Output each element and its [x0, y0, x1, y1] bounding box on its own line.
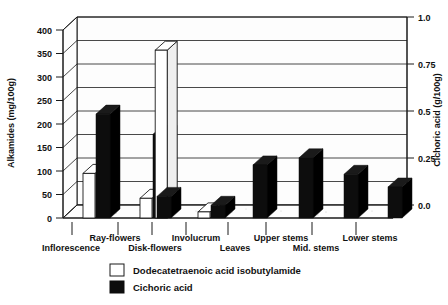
left-tick-400: 400 [37, 26, 52, 36]
category-label-involucrum: Involucrum [172, 233, 221, 243]
left-tick-200: 200 [37, 120, 52, 130]
right-tick-0_75: 0.75 [418, 60, 436, 70]
bar-chart-svg: 400 350 300 250 200 150 100 50 0 Alkamid… [0, 0, 448, 305]
bar-group-disk-flowers [155, 41, 181, 218]
bar-group-leaves [253, 156, 277, 218]
left-tick-150: 150 [37, 143, 52, 153]
category-label-leaves: Leaves [220, 243, 251, 253]
bar-group-upper-stems [299, 149, 323, 218]
category-label-disk-flowers: Disk-flowers [128, 243, 182, 253]
category-label-lower-stems: Lower stems [342, 233, 397, 243]
bar-lower-stems-cichoric [388, 178, 412, 218]
legend-label-alkamides: Dodecatetraenoic acid isobutylamide [133, 265, 301, 276]
right-tick-0_0: 0.0 [418, 201, 431, 211]
left-tick-0: 0 [47, 214, 52, 224]
bar-inflorescence-cichoric [96, 105, 120, 218]
bar-mid-stems-cichoric [344, 165, 368, 218]
chart-legend: Dodecatetraenoic acid isobutylamide Cich… [110, 264, 301, 293]
chart-figure: 400 350 300 250 200 150 100 50 0 Alkamid… [0, 0, 448, 305]
category-label-ray-flowers: Ray-flowers [89, 233, 140, 243]
left-tick-300: 300 [37, 73, 52, 83]
bar-upper-stems-cichoric [299, 149, 323, 218]
category-label-upper-stems: Upper stems [254, 233, 309, 243]
category-label-inflorescence: Inflorescence [42, 243, 100, 253]
left-tick-350: 350 [37, 49, 52, 59]
legend-swatch-cichoric [110, 281, 124, 293]
bar-group-mid-stems [344, 165, 368, 218]
category-labels: Ray-flowers Involucrum Upper stems Lower… [42, 233, 398, 253]
left-tick-50: 50 [42, 190, 52, 200]
right-axis-title: Cichoric acid (g/100g) [432, 73, 442, 167]
left-axis-title: Alkamides (mg/100g) [6, 78, 16, 168]
category-label-mid-stems: Mid. stems [293, 243, 340, 253]
legend-label-cichoric: Cichoric acid [133, 282, 193, 293]
left-tick-100: 100 [37, 167, 52, 177]
legend-swatch-alkamides [110, 264, 124, 276]
bar-leaves-cichoric [253, 156, 277, 218]
left-axis-ticks: 400 350 300 250 200 150 100 50 0 [37, 26, 63, 224]
right-tick-1_0: 1.0 [418, 13, 431, 23]
bar-group-lower-stems [388, 178, 412, 218]
right-tick-0_5: 0.5 [418, 107, 431, 117]
left-tick-250: 250 [37, 96, 52, 106]
